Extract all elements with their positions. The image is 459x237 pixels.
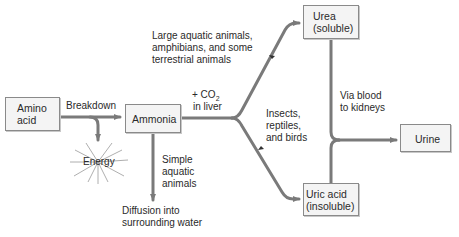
uric-acid-line1: Uric acid: [306, 188, 358, 200]
large-aquatic-line3: terrestrial animals: [152, 54, 253, 66]
pointer-insects: [258, 146, 264, 150]
via-blood-label: Via blood to kidneys: [340, 90, 385, 114]
diffusion-line2: surrounding water: [122, 217, 202, 229]
insects-line1: Insects,: [266, 108, 307, 120]
simple-aquatic-line1: Simple: [162, 154, 196, 166]
diffusion-line1: Diffusion into: [122, 205, 202, 217]
co2-prefix: + CO: [192, 89, 216, 100]
ammonia-label: Ammonia: [132, 113, 180, 125]
simple-aquatic-line3: animals: [162, 178, 196, 190]
amino-acid-line2: acid: [17, 114, 59, 126]
simple-aquatic-label: Simple aquatic animals: [162, 154, 196, 190]
insects-line3: and birds: [266, 132, 307, 144]
node-amino-acid: Amino acid: [5, 97, 60, 131]
urine-label: Urine: [415, 133, 450, 145]
node-urine: Urine: [400, 124, 451, 152]
node-urea: Urea (soluble): [303, 5, 359, 39]
insects-label: Insects, reptiles, and birds: [266, 108, 307, 144]
arrow-uric-up: [331, 140, 339, 183]
large-aquatic-line1: Large aquatic animals,: [152, 30, 253, 42]
in-liver-label: in liver: [193, 101, 222, 113]
simple-aquatic-line2: aquatic: [162, 166, 196, 178]
uric-acid-line2: (insoluble): [306, 200, 358, 212]
urea-line2: (soluble): [313, 22, 358, 34]
amino-acid-line1: Amino: [17, 102, 59, 114]
arrow-urea-down: [331, 38, 339, 140]
arrow-energy: [90, 117, 98, 140]
diffusion-label: Diffusion into surrounding water: [122, 205, 202, 229]
large-aquatic-line2: amphibians, and some: [152, 42, 253, 54]
via-blood-line2: to kidneys: [340, 102, 385, 114]
breakdown-label: Breakdown: [66, 100, 116, 112]
insects-line2: reptiles,: [266, 120, 307, 132]
node-ammonia: Ammonia: [125, 104, 181, 133]
urea-line1: Urea: [313, 10, 358, 22]
large-aquatic-label: Large aquatic animals, amphibians, and s…: [152, 30, 253, 66]
via-blood-line1: Via blood: [340, 90, 385, 102]
energy-label: Energy: [83, 156, 115, 167]
node-uric-acid: Uric acid (insoluble): [303, 183, 359, 216]
